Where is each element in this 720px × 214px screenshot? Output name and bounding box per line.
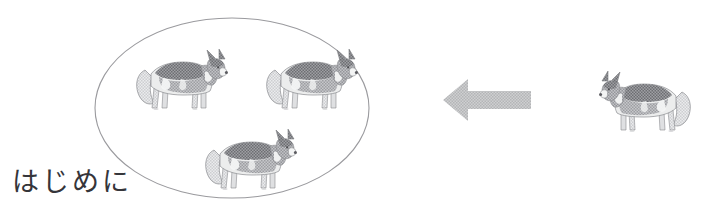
husky-in-group-1	[137, 49, 228, 110]
figure-caption: はじめに	[12, 168, 132, 196]
leftward-arrow	[443, 79, 531, 121]
husky-in-group-2	[267, 49, 358, 110]
husky-in-group-3	[206, 129, 297, 190]
figure-container: はじめに	[0, 0, 720, 214]
husky-single	[599, 71, 690, 132]
